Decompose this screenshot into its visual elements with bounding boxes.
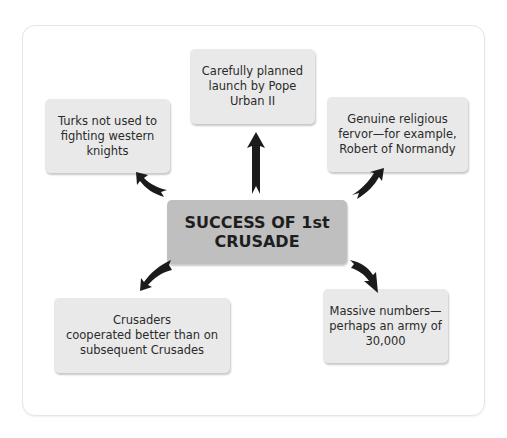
node-text-line: Crusaders (66, 313, 218, 328)
node-text-line: launch by Pope (202, 79, 303, 94)
node-text-line: Robert of Normandy (338, 142, 457, 157)
node-text-line: knights (58, 144, 157, 159)
node-text-line: cooperated better than on (66, 328, 218, 343)
node-text-line: Genuine religious (338, 112, 457, 127)
node-text-line: perhaps an army of (329, 319, 442, 334)
node-text-line: fervor—for example, (338, 127, 457, 142)
node-text-line: Carefully planned (202, 64, 303, 79)
node-crusader-cooperation: Crusaders cooperated better than on subs… (54, 298, 230, 373)
node-turks-unprepared: Turks not used to fighting western knigh… (45, 99, 170, 173)
arrow-down-left-icon (138, 260, 172, 292)
arrow-up-left-icon (134, 172, 168, 198)
node-text-line: 30,000 (329, 334, 442, 349)
node-text-line: fighting western (58, 129, 157, 144)
node-papal-launch: Carefully planned launch by Pope Urban I… (190, 49, 315, 124)
arrow-up-icon (246, 132, 266, 196)
node-text-line: subsequent Crusades (66, 343, 218, 358)
central-topic-line: CRUSADE (184, 232, 329, 251)
arrow-down-right-icon (350, 260, 380, 294)
node-massive-numbers: Massive numbers— perhaps an army of 30,0… (323, 289, 448, 363)
central-topic: SUCCESS OF 1st CRUSADE (167, 200, 347, 264)
central-topic-line: SUCCESS OF 1st (184, 213, 329, 232)
arrow-up-right-icon (351, 168, 385, 200)
node-religious-fervor: Genuine religious fervor—for example, Ro… (327, 97, 468, 172)
node-text-line: Turks not used to (58, 114, 157, 129)
node-text-line: Massive numbers— (329, 304, 442, 319)
node-text-line: Urban II (202, 94, 303, 109)
